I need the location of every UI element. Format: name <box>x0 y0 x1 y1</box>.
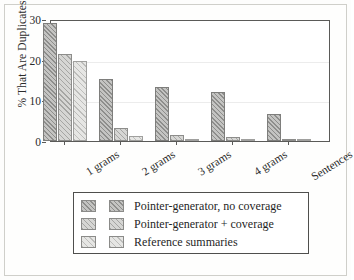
bar <box>58 54 72 141</box>
legend-swatch-icon <box>81 236 96 248</box>
legend-label: Pointer-generator + coverage <box>134 218 274 230</box>
legend-item: Reference summaries <box>74 233 308 251</box>
x-tick-mark <box>64 142 65 145</box>
bar <box>155 87 169 141</box>
legend-item: Pointer-generator + coverage <box>74 215 308 233</box>
x-tick-mark <box>232 142 233 145</box>
bar <box>297 139 311 141</box>
bar <box>211 92 225 141</box>
legend-swatch-icon <box>109 236 124 248</box>
x-tick-label: 1 grams <box>84 148 122 178</box>
bar <box>226 137 240 141</box>
x-tick-mark <box>288 142 289 145</box>
bar <box>170 135 184 141</box>
bar <box>267 114 281 141</box>
legend-item: Pointer-generator, no coverage <box>74 197 308 215</box>
y-tick-label: 30 <box>30 14 42 26</box>
legend-swatch-icon <box>109 200 124 212</box>
bar <box>282 139 296 141</box>
x-tick-label: 2 grams <box>140 148 178 178</box>
y-tick-mark <box>42 142 46 143</box>
bar <box>73 61 87 141</box>
bar <box>43 23 57 141</box>
bar-group-container <box>51 21 329 141</box>
bar <box>185 139 199 141</box>
legend-swatch-icon <box>81 200 96 212</box>
legend-label: Pointer-generator, no coverage <box>134 200 282 212</box>
bar <box>129 136 143 141</box>
x-tick-mark <box>176 142 177 145</box>
x-axis-ticks: 1 grams2 grams3 grams4 gramsSentences <box>50 142 330 187</box>
bar <box>99 79 113 141</box>
y-tick-label: 0 <box>35 136 41 148</box>
bar <box>241 139 255 141</box>
legend-label: Reference summaries <box>134 236 238 248</box>
x-tick-label: 3 grams <box>196 148 234 178</box>
plot-area <box>50 20 330 142</box>
x-tick-label: 4 grams <box>252 148 290 178</box>
bar-group <box>275 21 331 141</box>
legend-swatch-icon <box>81 218 96 230</box>
legend: Pointer-generator, no coveragePointer-ge… <box>73 192 309 254</box>
legend-swatch-icon <box>109 218 124 230</box>
bar <box>114 128 128 141</box>
y-axis-ticks: 0102030 <box>0 20 46 142</box>
y-tick-label: 20 <box>30 55 42 67</box>
x-tick-mark <box>120 142 121 145</box>
y-tick-label: 10 <box>30 95 42 107</box>
y-tick-mark <box>42 20 46 21</box>
